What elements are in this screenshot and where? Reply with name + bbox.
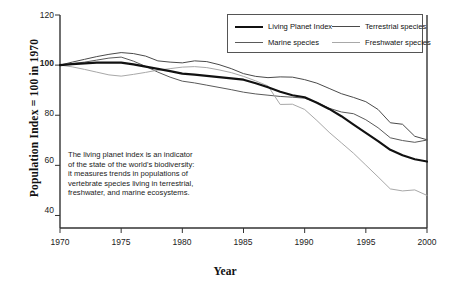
x-tick-1970: 1970 xyxy=(40,237,80,247)
legend-item-marine-species: Marine species xyxy=(235,36,319,49)
x-tick-1980: 1980 xyxy=(162,237,202,247)
y-tick-40: 40 xyxy=(20,205,54,215)
legend-swatch-marine-species xyxy=(235,42,263,43)
chart-canvas: Population Index = 100 in 1970 120 100 8… xyxy=(0,0,450,294)
chart-legend: Living Planet Index Terrestrial species … xyxy=(227,14,423,53)
legend-label-marine-species: Marine species xyxy=(268,38,319,47)
legend-label-freshwater-species: Freshwater species xyxy=(365,38,431,47)
x-tick-1985: 1985 xyxy=(223,237,263,247)
annotation-line-5: freshwater, and marine ecosystems. xyxy=(68,188,218,198)
x-tick-2000: 2000 xyxy=(407,237,447,247)
legend-label-terrestrial-species: Terrestrial species xyxy=(365,22,426,31)
annotation-line-2: of the state of the world's biodiversity… xyxy=(68,160,218,170)
y-tick-120: 120 xyxy=(20,10,54,20)
y-tick-100: 100 xyxy=(20,58,54,68)
y-tick-60: 60 xyxy=(20,155,54,165)
legend-label-living-planet-index: Living Planet Index xyxy=(268,22,332,31)
annotation-line-1: The living planet index is an indicator xyxy=(68,150,218,160)
annotation-text: The living planet index is an indicator … xyxy=(68,150,218,198)
legend-swatch-living-planet-index xyxy=(235,26,263,28)
legend-item-freshwater-species: Freshwater species xyxy=(332,36,431,49)
legend-item-terrestrial-species: Terrestrial species xyxy=(332,20,426,33)
y-tick-80: 80 xyxy=(20,108,54,118)
annotation-line-4: vertebrate species living in terrestrial… xyxy=(68,179,218,189)
legend-swatch-freshwater-species xyxy=(332,42,360,43)
x-tick-1995: 1995 xyxy=(346,237,386,247)
legend-swatch-terrestrial-species xyxy=(332,26,360,27)
x-tick-1990: 1990 xyxy=(284,237,324,247)
legend-item-living-planet-index: Living Planet Index xyxy=(235,20,332,33)
x-axis-title: Year xyxy=(0,265,450,277)
annotation-line-3: it measures trends in populations of xyxy=(68,169,218,179)
x-tick-1975: 1975 xyxy=(101,237,141,247)
